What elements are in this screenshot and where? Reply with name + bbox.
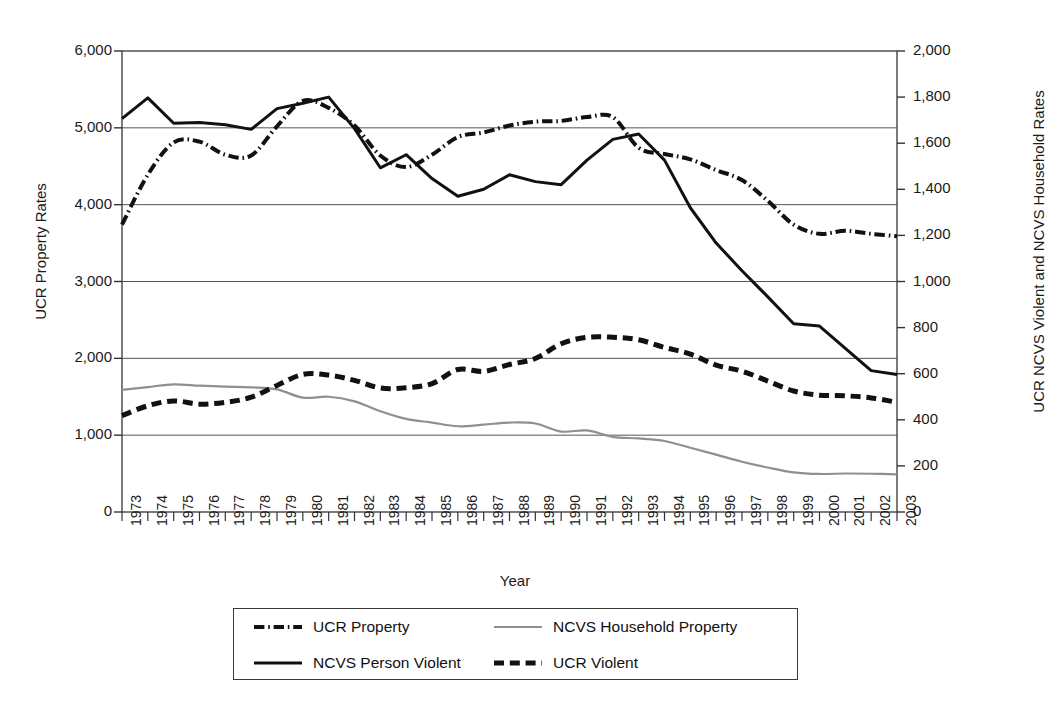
x-axis-tick-label: 1994: [671, 495, 687, 526]
x-axis-tick-label: 1996: [722, 495, 738, 526]
y-axis-left-tick-label: 1,000: [20, 425, 112, 442]
x-axis-tick-label: 1986: [464, 495, 480, 526]
x-axis-tick-label: 1988: [516, 495, 532, 526]
series-line-ncvs-person-violent: [122, 97, 897, 374]
y-axis-right-tick-label: 200: [913, 456, 938, 473]
x-axis-tick-label: 1984: [412, 495, 428, 526]
legend-item-ncvs-household-property[interactable]: NCVS Household Property: [486, 609, 786, 645]
x-axis-tick-label: 2001: [851, 495, 867, 526]
legend-label-ncvs-person-violent: NCVS Person Violent: [313, 654, 461, 672]
x-axis-tick-label: 1995: [696, 495, 712, 526]
x-axis-tick-label: 1975: [180, 495, 196, 526]
x-axis-tick-label: 2002: [877, 495, 893, 526]
x-axis-tick-label: 1991: [593, 495, 609, 526]
x-axis-tick-label: 1999: [800, 495, 816, 526]
y-axis-left-tick-label: 4,000: [20, 195, 112, 212]
legend-label-ucr-violent: UCR Violent: [553, 654, 638, 672]
legend-label-ncvs-household-property: NCVS Household Property: [553, 618, 737, 636]
legend-item-ucr-property[interactable]: UCR Property: [234, 609, 486, 645]
x-axis-tick-label: 1998: [774, 495, 790, 526]
y-axis-right-tick-label: 2,000: [913, 41, 951, 58]
legend-swatch-ncvs-person-violent: [252, 656, 304, 670]
x-axis-tick-label: 1976: [206, 495, 222, 526]
x-axis-tick-label: 1973: [128, 495, 144, 526]
y-axis-left-tick-label: 0: [20, 502, 112, 519]
y-axis-left-tick-label: 6,000: [20, 41, 112, 58]
x-axis-tick-label: 1974: [154, 495, 170, 526]
x-axis-tick-label: 1977: [231, 495, 247, 526]
y-axis-right-tick-label: 1,200: [913, 225, 951, 242]
y-axis-right-tick-label: 400: [913, 410, 938, 427]
x-axis-tick-label: 1983: [386, 495, 402, 526]
series-line-ucr-violent: [122, 337, 897, 416]
y-axis-right-tick-label: 600: [913, 364, 938, 381]
x-axis-tick-label: 1978: [257, 495, 273, 526]
x-axis-tick-label: 2003: [903, 495, 919, 526]
x-axis-tick-label: 1990: [567, 495, 583, 526]
x-axis-tick-label: 1997: [748, 495, 764, 526]
x-axis-tick-label: 1982: [361, 495, 377, 526]
x-axis-title: Year: [0, 572, 1030, 589]
x-axis-tick-label: 1993: [645, 495, 661, 526]
series-line-ncvs-household-property: [122, 384, 897, 474]
x-axis-tick-label: 1980: [309, 495, 325, 526]
y-axis-right-tick-label: 800: [913, 318, 938, 335]
y-axis-right-tick-label: 1,000: [913, 272, 951, 289]
legend-row-2: NCVS Person Violent UCR Violent: [234, 645, 797, 681]
series-line-ucr-property: [122, 100, 897, 236]
x-axis-tick-label: 2000: [826, 495, 842, 526]
legend-swatch-ucr-property: [252, 620, 304, 634]
legend-item-ncvs-person-violent[interactable]: NCVS Person Violent: [234, 645, 486, 681]
x-axis-tick-label: 1985: [438, 495, 454, 526]
x-axis-tick-label: 1979: [283, 495, 299, 526]
x-axis-tick-label: 1981: [335, 495, 351, 526]
y-axis-right-tick-label: 1,800: [913, 87, 951, 104]
legend-swatch-ucr-violent: [492, 656, 544, 670]
legend-label-ucr-property: UCR Property: [313, 618, 409, 636]
y-axis-right-title: UCR NCVS Violent and NCVS Household Rate…: [1030, 0, 1047, 532]
legend-swatch-ncvs-household-property: [492, 620, 544, 634]
x-axis-tick-label: 1989: [541, 495, 557, 526]
x-axis-tick-label: 1987: [490, 495, 506, 526]
y-axis-left-tick-label: 5,000: [20, 118, 112, 135]
y-axis-left-tick-label: 3,000: [20, 272, 112, 289]
y-axis-left-tick-label: 2,000: [20, 348, 112, 365]
chart-legend: UCR Property NCVS Household Property NCV…: [233, 608, 798, 680]
x-axis-tick-label: 1992: [619, 495, 635, 526]
legend-row-1: UCR Property NCVS Household Property: [234, 609, 797, 645]
y-axis-right-tick-label: 1,600: [913, 133, 951, 150]
legend-item-ucr-violent[interactable]: UCR Violent: [486, 645, 786, 681]
y-axis-right-tick-label: 1,400: [913, 179, 951, 196]
